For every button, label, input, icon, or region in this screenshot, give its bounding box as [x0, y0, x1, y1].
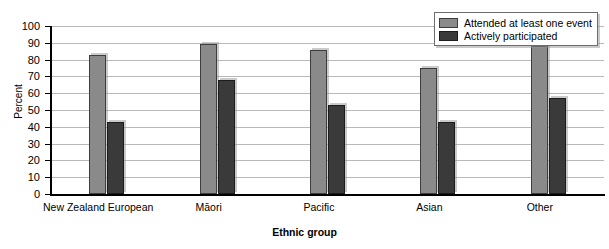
y-axis-tick-label: 90 — [14, 38, 40, 48]
y-axis-tick-mark — [45, 177, 51, 178]
y-axis-tick-label: 20 — [14, 155, 40, 165]
legend-swatch-icon — [439, 31, 458, 41]
bar — [549, 98, 566, 194]
chart-legend: Attended at least one event Actively par… — [434, 12, 598, 46]
y-axis-tick-mark — [45, 110, 51, 111]
x-axis-line — [50, 194, 605, 196]
plot-area — [52, 26, 604, 194]
y-axis-tick-mark — [45, 60, 51, 61]
legend-item: Actively participated — [439, 29, 592, 42]
bar — [438, 122, 455, 194]
bar-group — [200, 26, 236, 194]
y-axis-tick-mark — [45, 144, 51, 145]
bar-chart: Percent 0102030405060708090100 Ethnic gr… — [0, 0, 609, 249]
y-axis-tick-mark — [45, 43, 51, 44]
y-axis-tick-label: 10 — [14, 172, 40, 182]
x-axis-tick-label: New Zealand European — [43, 201, 153, 213]
x-axis-title: Ethnic group — [0, 226, 609, 238]
bar-group — [89, 26, 125, 194]
y-axis-tick-mark — [45, 127, 51, 128]
legend-swatch-icon — [439, 18, 458, 28]
y-axis-tick-mark — [45, 93, 51, 94]
x-axis-tick-label: Asian — [416, 201, 442, 213]
y-axis-tick-label: 50 — [14, 105, 40, 115]
y-axis-tick-mark — [45, 26, 51, 27]
y-axis-tick-mark — [45, 194, 51, 195]
bar — [328, 105, 345, 194]
bar — [89, 55, 106, 194]
bar — [200, 44, 217, 194]
y-axis-tick-label: 100 — [14, 21, 40, 31]
legend-item-label: Attended at least one event — [464, 17, 592, 29]
x-axis-tick-label: Other — [527, 201, 553, 213]
y-axis-tick-label: 80 — [14, 55, 40, 65]
y-axis-tick-mark — [45, 160, 51, 161]
y-axis-tick-mark — [45, 76, 51, 77]
bar — [310, 50, 327, 194]
bar — [107, 122, 124, 194]
x-axis-tick-label: Māori — [195, 201, 221, 213]
bar-group — [420, 26, 456, 194]
y-axis-tick-label: 0 — [14, 189, 40, 199]
legend-item-label: Actively participated — [464, 30, 557, 42]
y-axis-tick-label: 40 — [14, 122, 40, 132]
bar-group — [310, 26, 346, 194]
bar — [218, 80, 235, 194]
legend-item: Attended at least one event — [439, 16, 592, 29]
y-axis-tick-label: 30 — [14, 139, 40, 149]
bar-group — [531, 26, 567, 194]
y-axis-tick-labels: 0102030405060708090100 — [14, 0, 40, 249]
bar — [420, 68, 437, 194]
bar — [531, 46, 548, 194]
y-axis-tick-label: 60 — [14, 88, 40, 98]
y-axis-tick-label: 70 — [14, 71, 40, 81]
x-axis-tick-label: Pacific — [304, 201, 335, 213]
